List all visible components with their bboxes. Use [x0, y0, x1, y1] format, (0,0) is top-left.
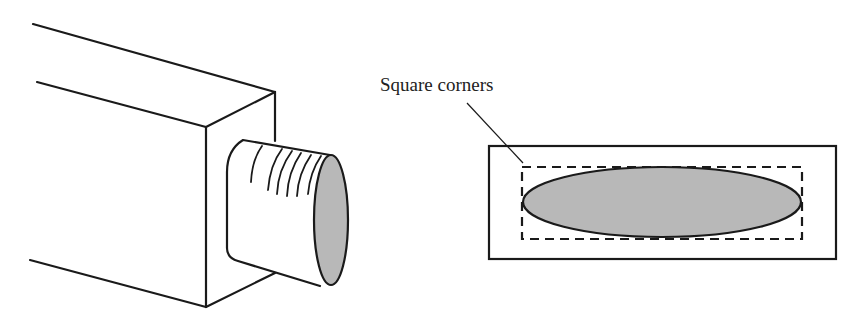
bar-middle-edge [37, 82, 206, 127]
bar-with-tenon-figure [30, 24, 348, 307]
bar-top-edge [33, 24, 275, 92]
bar-bottom-edge [30, 260, 206, 307]
bar-front-bottom-edge [206, 273, 275, 307]
oval-tenon-section [523, 167, 801, 237]
end-view-figure [467, 103, 836, 259]
callout-label: Square corners [380, 74, 493, 95]
diagram-canvas: Square corners [0, 0, 865, 323]
bar-front-top-edge [206, 92, 275, 127]
tenon-end-face [314, 155, 348, 285]
callout-leader-line [467, 103, 523, 163]
